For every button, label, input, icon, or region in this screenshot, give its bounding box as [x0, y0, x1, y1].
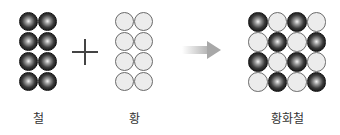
- iron-atom-icon: [307, 72, 327, 92]
- iron-sulfide-atom-grid: [248, 12, 326, 92]
- iron-atom-icon: [19, 52, 38, 71]
- sulfur-atom-icon: [115, 52, 134, 71]
- arrow-head: [207, 41, 221, 59]
- iron-atom-icon: [248, 52, 268, 72]
- iron-atom-icon: [19, 32, 38, 51]
- sulfur-atom-icon: [307, 52, 327, 72]
- sulfur-atom-icon: [134, 72, 153, 91]
- iron-atom-grid: [19, 12, 57, 92]
- label-iron: 철: [33, 109, 44, 126]
- sulfur-atom-icon: [115, 12, 134, 31]
- sulfur-atom-icon: [287, 72, 307, 92]
- iron-atom-icon: [19, 12, 38, 31]
- iron-atom-icon: [248, 12, 268, 32]
- iron-atom-icon: [38, 52, 57, 71]
- sulfur-atom-icon: [268, 12, 288, 32]
- iron-atom-icon: [38, 72, 57, 91]
- sulfur-atom-icon: [115, 72, 134, 91]
- sulfur-atom-icon: [134, 52, 153, 71]
- label-sulfur: 황: [129, 109, 140, 126]
- sulfur-atom-icon: [134, 32, 153, 51]
- sulfur-atom-icon: [134, 12, 153, 31]
- iron-atom-icon: [268, 32, 288, 52]
- plus-icon: [72, 39, 98, 65]
- arrow-shaft: [182, 46, 208, 54]
- arrow-right-icon: [182, 41, 222, 59]
- sulfur-atom-icon: [248, 32, 268, 52]
- label-iron-sulfide: 황화철: [271, 109, 304, 126]
- sulfur-atom-icon: [287, 32, 307, 52]
- iron-atom-icon: [287, 12, 307, 32]
- iron-atom-icon: [38, 12, 57, 31]
- sulfur-atom-icon: [115, 32, 134, 51]
- iron-atom-icon: [307, 32, 327, 52]
- iron-atom-icon: [19, 72, 38, 91]
- sulfur-atom-icon: [307, 12, 327, 32]
- sulfur-atom-grid: [115, 12, 153, 92]
- sulfur-atom-icon: [268, 52, 288, 72]
- iron-atom-icon: [287, 52, 307, 72]
- iron-atom-icon: [38, 32, 57, 51]
- iron-atom-icon: [268, 72, 288, 92]
- sulfur-atom-icon: [248, 72, 268, 92]
